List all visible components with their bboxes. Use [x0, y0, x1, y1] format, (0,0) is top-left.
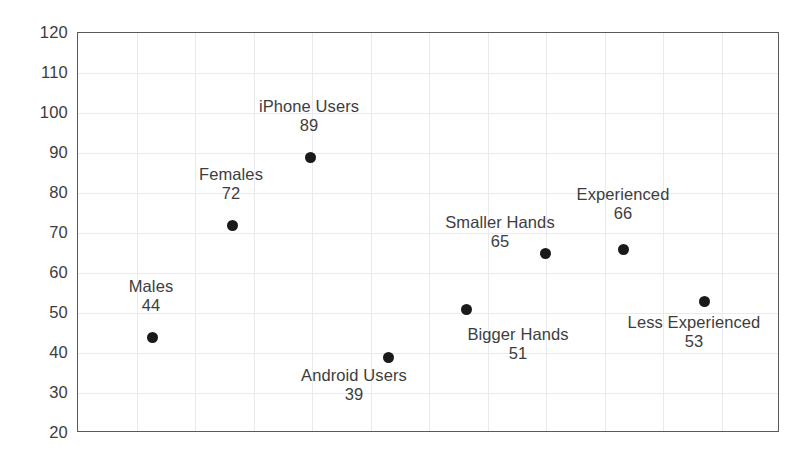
y-axis-tick-30: 30 [49, 384, 68, 401]
data-label-value: 53 [628, 332, 761, 351]
data-label-name: Less Experienced [628, 313, 761, 332]
data-label-value: 89 [259, 116, 359, 135]
data-label-name: Males [129, 277, 174, 296]
y-axis-tick-80: 80 [49, 184, 68, 201]
data-point [461, 304, 472, 315]
gridline-horizontal [78, 153, 778, 154]
gridline-vertical [429, 33, 430, 431]
data-label-name: Females [199, 165, 263, 184]
data-point [383, 352, 394, 363]
data-point [699, 296, 710, 307]
gridline-vertical [663, 33, 664, 431]
y-axis-tick-120: 120 [40, 24, 68, 41]
gridline-horizontal [78, 113, 778, 114]
gridline-horizontal [78, 353, 778, 354]
gridline-horizontal [78, 233, 778, 234]
gridline-vertical [605, 33, 606, 431]
plot-area [77, 32, 779, 432]
data-label-iphone-users: iPhone Users89 [259, 97, 359, 136]
data-point [305, 152, 316, 163]
data-label-android-users: Android Users39 [301, 366, 407, 405]
data-label-name: iPhone Users [259, 97, 359, 116]
data-label-value: 44 [129, 296, 174, 315]
data-label-males: Males44 [129, 277, 174, 316]
gridline-vertical [137, 33, 138, 431]
data-label-value: 39 [301, 385, 407, 404]
data-label-experienced: Experienced66 [577, 185, 670, 224]
data-point [227, 220, 238, 231]
y-axis-tick-110: 110 [41, 64, 68, 81]
gridline-vertical [195, 33, 196, 431]
gridline-horizontal [78, 273, 778, 274]
data-label-name: Experienced [577, 185, 670, 204]
data-label-value: 51 [467, 344, 568, 363]
gridline-horizontal [78, 393, 778, 394]
y-axis-tick-40: 40 [49, 344, 68, 361]
data-label-value: 72 [199, 184, 263, 203]
gridline-horizontal [78, 193, 778, 194]
gridline-vertical [722, 33, 723, 431]
data-label-name: Smaller Hands [445, 213, 555, 232]
scatter-chart: 1201101009080706050403020 Males44Females… [0, 0, 809, 458]
gridline-horizontal [78, 73, 778, 74]
data-label-less-experienced: Less Experienced53 [628, 313, 761, 352]
data-point [147, 332, 158, 343]
gridline-vertical [254, 33, 255, 431]
y-axis-tick-60: 60 [49, 264, 68, 281]
y-axis-tick-100: 100 [40, 104, 68, 121]
data-label-value: 66 [577, 204, 670, 223]
y-axis-tick-20: 20 [49, 424, 68, 441]
data-label-bigger-hands: Bigger Hands51 [467, 325, 568, 364]
data-point [618, 244, 629, 255]
data-label-smaller-hands: Smaller Hands65 [445, 213, 555, 252]
data-label-females: Females72 [199, 165, 263, 204]
y-axis-tick-50: 50 [49, 304, 68, 321]
y-axis-tick-70: 70 [49, 224, 68, 241]
data-label-name: Android Users [301, 366, 407, 385]
data-label-name: Bigger Hands [467, 325, 568, 344]
data-label-value: 65 [445, 232, 555, 251]
y-axis-tick-90: 90 [49, 144, 68, 161]
